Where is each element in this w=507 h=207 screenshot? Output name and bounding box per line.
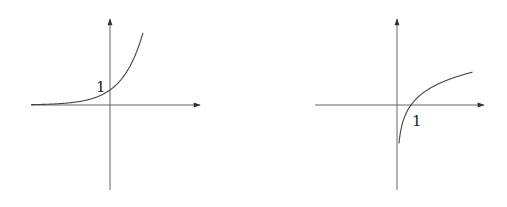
log-chart: 1 xyxy=(315,19,484,190)
exp-curve xyxy=(31,33,143,105)
x-intercept-label: 1 xyxy=(412,112,422,130)
y-intercept-label: 1 xyxy=(96,78,106,96)
log-curve xyxy=(399,72,473,143)
exp-chart: 1 xyxy=(31,19,200,190)
figure: 1 1 xyxy=(0,0,507,207)
